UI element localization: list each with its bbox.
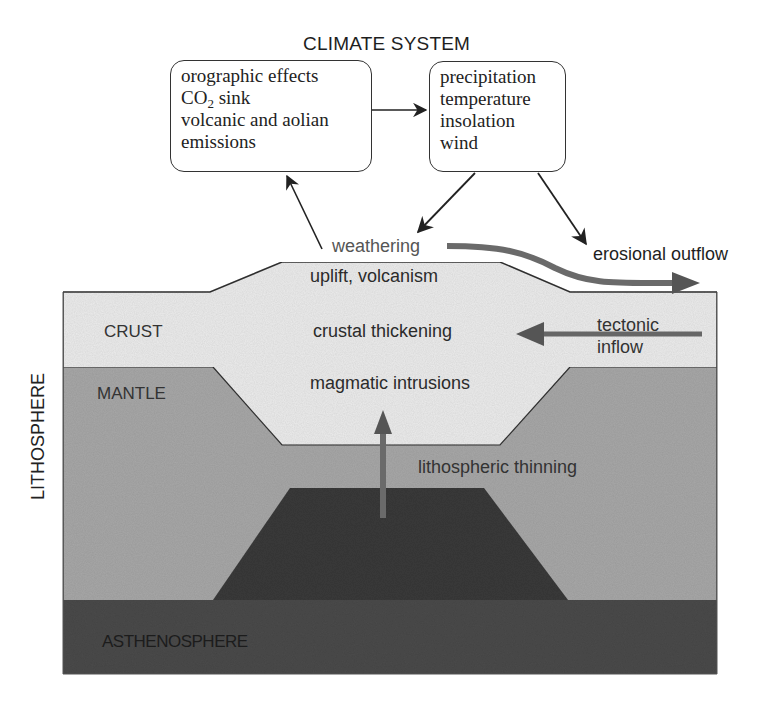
box-line-emissions: emissions xyxy=(181,131,361,153)
erosional-outflow-label: erosional outflow xyxy=(593,244,728,265)
magmatic-intrusions-label: magmatic intrusions xyxy=(310,373,470,394)
box-line-volcanic: volcanic and aolian xyxy=(181,109,361,131)
crust-label: CRUST xyxy=(104,322,163,342)
box-line-temperature: temperature xyxy=(440,88,555,110)
weathering-label: weathering xyxy=(332,236,420,257)
lithosphere-climate-diagram: CLIMATE SYSTEM orographic effects CO2 si… xyxy=(0,0,782,703)
arrow-right-box-to-weathering xyxy=(418,173,475,232)
diagram-graphics xyxy=(0,0,782,703)
lithosphere-label: LITHOSPHERE xyxy=(28,373,49,500)
uplift-volcanism-label: uplift, volcanism xyxy=(310,266,438,287)
arrow-right-box-to-erosion xyxy=(538,173,586,244)
box-line-orographic: orographic effects xyxy=(181,65,361,87)
box-line-insolation: insolation xyxy=(440,110,555,132)
box-line-wind: wind xyxy=(440,132,555,154)
crustal-thickening-label: crustal thickening xyxy=(313,321,452,342)
climate-variables-box: precipitation temperature insolation win… xyxy=(429,61,566,172)
box-line-precipitation: precipitation xyxy=(440,66,555,88)
box-line-co2-sink: CO2 sink xyxy=(181,87,361,109)
arrow-surface-to-left-box xyxy=(287,176,322,249)
mantle-label: MANTLE xyxy=(97,384,166,404)
asthenosphere-label: ASTHENOSPHERE xyxy=(102,632,248,652)
tectonic-inflow-label-line2: inflow xyxy=(597,337,643,358)
tectonic-inflow-label-line1: tectonic xyxy=(597,315,659,336)
lithospheric-thinning-label: lithospheric thinning xyxy=(418,457,577,478)
climate-feedback-box: orographic effects CO2 sink volcanic and… xyxy=(170,60,372,172)
diagram-title: CLIMATE SYSTEM xyxy=(303,33,470,55)
